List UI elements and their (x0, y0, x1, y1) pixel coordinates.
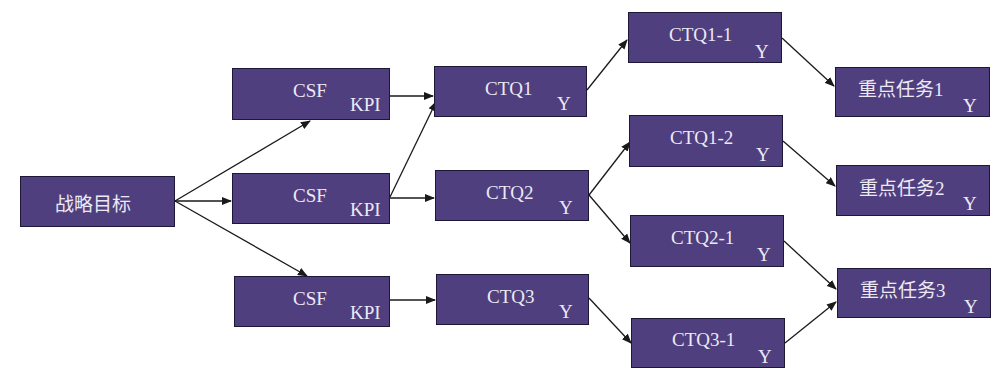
node-label: CTQ3-1 (672, 329, 735, 351)
node-label: CSF (293, 80, 327, 102)
node-label: CSF (293, 184, 327, 206)
node-sublabel: Y (964, 296, 978, 318)
node-label: CTQ3 (487, 285, 535, 307)
edge-ctq2-ctq1-2 (589, 142, 630, 195)
edge-ctq3-ctq3-1 (589, 298, 631, 343)
node-sublabel: KPI (350, 94, 381, 116)
node-key-task-3: 重点任务3 Y (837, 268, 991, 318)
node-sublabel: Y (755, 41, 769, 63)
node-key-task-2: 重点任务2 Y (836, 165, 990, 216)
edge-ctq3-1-task3 (785, 302, 836, 343)
node-strategic-goal: 战略目标 (20, 176, 175, 227)
node-sublabel: Y (559, 197, 573, 219)
node-ctq1-1: CTQ1-1 Y (628, 12, 782, 63)
node-csf-2: CSF KPI (232, 173, 390, 224)
node-key-task-1: 重点任务1 Y (835, 67, 990, 117)
node-ctq3: CTQ3 Y (436, 274, 589, 325)
node-label: 重点任务2 (859, 173, 945, 200)
edge-csf2-ctq1 (390, 102, 436, 197)
node-sublabel: Y (963, 193, 977, 215)
node-sublabel: Y (757, 244, 771, 266)
node-label: CTQ2-1 (671, 227, 734, 249)
node-label: 重点任务3 (860, 275, 946, 302)
node-label: CSF (293, 287, 327, 309)
edge-ctq2-1-task3 (784, 241, 836, 289)
edge-ctq1-ctq1-1 (587, 40, 627, 90)
node-sublabel: Y (557, 93, 571, 115)
node-ctq3-1: CTQ3-1 Y (631, 318, 785, 368)
node-csf-1: CSF KPI (232, 68, 390, 120)
node-sublabel: Y (559, 301, 573, 323)
node-sublabel: Y (758, 346, 772, 368)
node-label: CTQ1-1 (669, 23, 732, 45)
node-label: 战略目标 (55, 188, 131, 215)
edge-ctq2-ctq2-1 (589, 195, 630, 243)
node-sublabel: Y (963, 95, 977, 117)
node-label: CTQ1 (485, 77, 533, 99)
node-csf-3: CSF KPI (234, 276, 390, 327)
node-ctq1-2: CTQ1-2 Y (629, 115, 783, 167)
node-ctq2: CTQ2 Y (435, 170, 589, 221)
node-sublabel: KPI (350, 199, 381, 221)
node-ctq1: CTQ1 Y (434, 66, 587, 117)
node-label: 重点任务1 (858, 74, 944, 101)
node-sublabel: Y (756, 144, 770, 166)
edge-ctq1-1-task1 (782, 38, 834, 86)
node-label: CTQ1-2 (670, 127, 733, 149)
edge-ctq1-2-task2 (783, 141, 835, 186)
node-sublabel: KPI (350, 302, 381, 324)
node-label: CTQ2 (486, 181, 534, 203)
node-ctq2-1: CTQ2-1 Y (630, 215, 784, 267)
